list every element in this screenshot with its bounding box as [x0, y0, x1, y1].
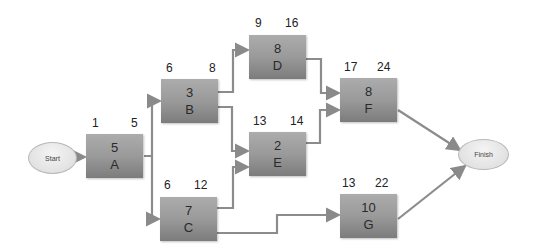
- activity-node-c: 7 C: [160, 197, 217, 241]
- finish-node: Finish: [458, 139, 509, 170]
- activity-f-id: F: [340, 100, 397, 117]
- activity-a-ef: 5: [131, 116, 138, 130]
- activity-f-es: 17: [344, 60, 357, 74]
- start-node: Start: [28, 142, 77, 174]
- activity-f-ef: 24: [377, 60, 390, 74]
- activity-g-id: G: [340, 216, 397, 233]
- activity-b-id: B: [161, 101, 218, 118]
- activity-a-es: 1: [92, 116, 99, 130]
- activity-b-duration: 3: [161, 84, 218, 101]
- activity-node-e: 2 E: [249, 132, 306, 176]
- activity-node-b: 3 B: [161, 79, 218, 123]
- activity-a-id: A: [86, 156, 143, 173]
- activity-c-ef: 12: [194, 178, 207, 192]
- activity-c-id: C: [160, 219, 217, 236]
- activity-c-es: 6: [164, 178, 171, 192]
- activity-a-duration: 5: [86, 139, 143, 156]
- activity-e-id: E: [249, 154, 306, 171]
- activity-e-es: 13: [253, 114, 266, 128]
- activity-node-f: 8 F: [340, 78, 397, 122]
- activity-c-duration: 7: [160, 202, 217, 219]
- start-label: Start: [45, 155, 60, 162]
- activity-g-duration: 10: [340, 199, 397, 216]
- activity-d-duration: 8: [249, 40, 306, 57]
- activity-node-g: 10 G: [340, 194, 397, 238]
- activity-b-ef: 8: [209, 61, 216, 75]
- activity-e-ef: 14: [290, 114, 303, 128]
- activity-e-duration: 2: [249, 137, 306, 154]
- activity-g-es: 13: [342, 176, 355, 190]
- activity-node-a: 5 A: [86, 134, 143, 178]
- activity-d-es: 9: [255, 16, 262, 30]
- finish-label: Finish: [474, 151, 493, 158]
- activity-f-duration: 8: [340, 83, 397, 100]
- activity-g-ef: 22: [375, 176, 388, 190]
- activity-node-d: 8 D: [249, 35, 306, 79]
- activity-b-es: 6: [166, 61, 173, 75]
- activity-d-id: D: [249, 57, 306, 74]
- activity-d-ef: 16: [285, 16, 298, 30]
